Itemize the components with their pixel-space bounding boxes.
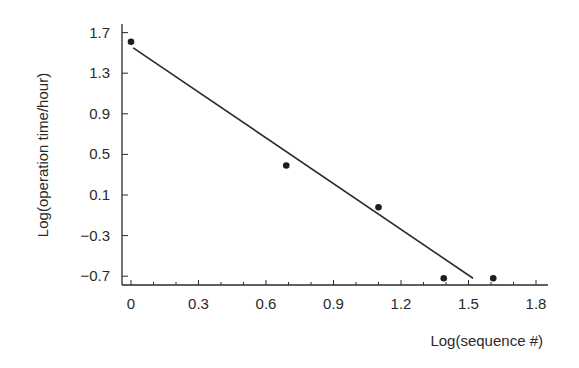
y-tick-label: 1.3 [89, 64, 110, 81]
y-tick-label: 1.7 [89, 24, 110, 41]
x-tick-label: 1.2 [391, 295, 412, 312]
scatter-chart: 00.30.60.91.21.51.81.71.30.90.50.1−0.3−0… [0, 0, 579, 368]
x-tick-label: 0.6 [256, 295, 277, 312]
y-axis-label: Log(operation time/hour) [34, 73, 51, 237]
data-points [128, 38, 497, 281]
x-tick-label: 1.5 [458, 295, 479, 312]
axes [122, 24, 548, 285]
data-point [490, 275, 497, 282]
data-point [440, 275, 447, 282]
y-tick-label: 0.1 [89, 186, 110, 203]
fitted-line [133, 48, 473, 278]
axis-ticks [122, 33, 536, 285]
data-point [283, 162, 290, 169]
tick-labels: 00.30.60.91.21.51.81.71.30.90.50.1−0.3−0… [80, 24, 546, 312]
x-tick-label: 1.8 [526, 295, 547, 312]
regression-line [133, 48, 473, 278]
x-axis-label: Log(sequence #) [430, 332, 543, 349]
y-tick-label: 0.5 [89, 145, 110, 162]
data-point [128, 38, 135, 45]
x-tick-label: 0 [127, 295, 135, 312]
y-tick-label: −0.3 [80, 227, 110, 244]
y-tick-label: 0.9 [89, 105, 110, 122]
x-tick-label: 0.3 [188, 295, 209, 312]
data-point [375, 204, 382, 211]
x-tick-label: 0.9 [323, 295, 344, 312]
y-tick-label: −0.7 [80, 267, 110, 284]
